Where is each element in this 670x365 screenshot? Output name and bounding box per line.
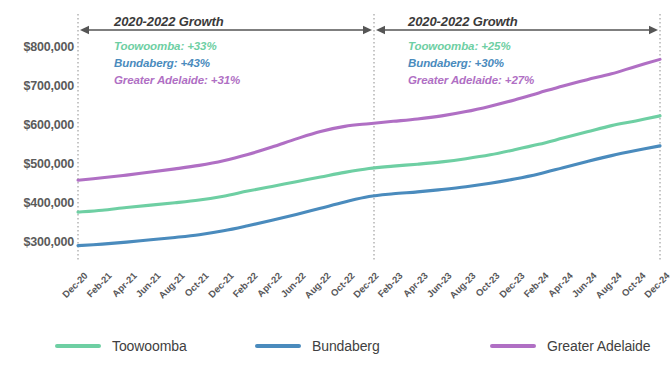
growth-annotation-item: Greater Adelaide: +31% [114, 72, 240, 89]
legend-label: Toowoomba [112, 338, 187, 354]
growth-annotation-item: Toowoomba: +33% [114, 38, 240, 55]
growth-annotation-items: Toowoomba: +25%Bundaberg: +30%Greater Ad… [408, 38, 534, 89]
growth-annotation-item: Bundaberg: +30% [408, 55, 534, 72]
growth-annotation-left: 2020-2022 GrowthToowoomba: +33%Bundaberg… [114, 14, 240, 89]
legend-label: Greater Adelaide [547, 338, 650, 354]
legend-label: Bundaberg [312, 338, 380, 354]
growth-annotation-right: 2020-2022 GrowthToowoomba: +25%Bundaberg… [408, 14, 534, 89]
growth-annotation-item: Bundaberg: +43% [114, 55, 240, 72]
price-trend-line-chart: $300,000$400,000$500,000$600,000$700,000… [0, 0, 670, 365]
growth-annotation-item: Greater Adelaide: +27% [408, 72, 534, 89]
legend-line-swatch [490, 344, 536, 348]
growth-annotation-title: 2020-2022 Growth [114, 14, 240, 29]
legend-item-bundaberg[interactable]: Bundaberg [255, 338, 380, 354]
chart-legend: ToowoombaBundabergGreater Adelaide [0, 332, 670, 360]
legend-line-swatch [255, 344, 301, 348]
growth-annotation-title: 2020-2022 Growth [408, 14, 534, 29]
legend-line-swatch [55, 344, 101, 348]
x-axis: Dec-20Feb-21Apr-21Jun-21Aug-21Oct-21Dec-… [0, 0, 670, 365]
legend-item-greater-adelaide[interactable]: Greater Adelaide [490, 338, 650, 354]
growth-annotation-item: Toowoomba: +25% [408, 38, 534, 55]
legend-item-toowoomba[interactable]: Toowoomba [55, 338, 187, 354]
growth-annotation-items: Toowoomba: +33%Bundaberg: +43%Greater Ad… [114, 38, 240, 89]
